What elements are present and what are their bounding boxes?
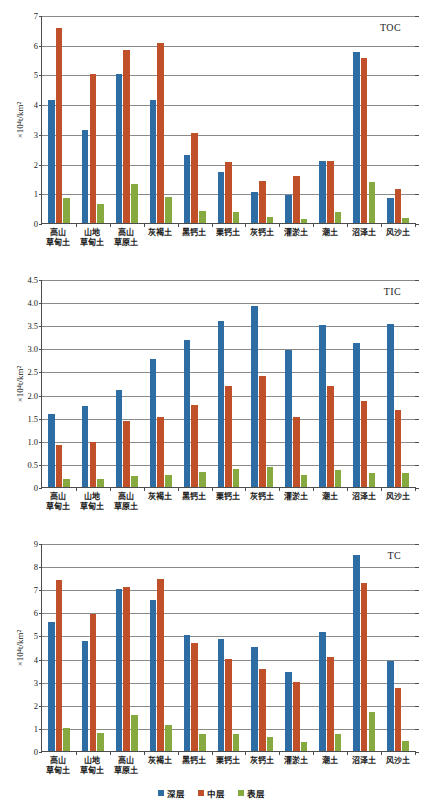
bar-deep[interactable]: [353, 555, 360, 751]
bar-middle[interactable]: [157, 417, 164, 487]
bar-surface[interactable]: [335, 734, 342, 751]
bar-deep[interactable]: [319, 161, 326, 223]
bar-surface[interactable]: [199, 472, 206, 487]
bar-surface[interactable]: [165, 475, 172, 487]
bar-deep[interactable]: [387, 661, 394, 751]
bar-middle[interactable]: [123, 421, 130, 487]
bar-surface[interactable]: [301, 475, 308, 487]
bar-middle[interactable]: [361, 58, 368, 223]
bar-surface[interactable]: [233, 734, 240, 751]
bar-deep[interactable]: [285, 350, 292, 487]
bar-surface[interactable]: [369, 712, 376, 751]
bar-middle[interactable]: [225, 162, 232, 223]
bar-surface[interactable]: [267, 467, 274, 487]
bar-middle[interactable]: [157, 579, 164, 751]
bar-surface[interactable]: [97, 733, 104, 751]
bar-surface[interactable]: [402, 473, 409, 487]
bar-deep[interactable]: [387, 198, 394, 223]
bar-deep[interactable]: [184, 340, 191, 487]
bar-middle[interactable]: [56, 445, 63, 487]
bar-surface[interactable]: [369, 473, 376, 487]
bar-surface[interactable]: [369, 182, 376, 223]
bar-surface[interactable]: [199, 211, 206, 223]
bar-middle[interactable]: [259, 376, 266, 487]
bar-middle[interactable]: [395, 189, 402, 223]
bar-surface[interactable]: [301, 742, 308, 751]
bar-middle[interactable]: [327, 161, 334, 223]
bar-surface[interactable]: [267, 737, 274, 751]
bar-middle[interactable]: [90, 614, 97, 751]
bar-deep[interactable]: [82, 406, 89, 487]
bar-surface[interactable]: [63, 198, 70, 223]
bar-middle[interactable]: [293, 682, 300, 751]
bar-deep[interactable]: [285, 195, 292, 223]
bar-middle[interactable]: [56, 580, 63, 751]
bar-middle[interactable]: [90, 74, 97, 223]
bar-deep[interactable]: [184, 155, 191, 223]
bar-surface[interactable]: [335, 212, 342, 223]
bar-middle[interactable]: [123, 587, 130, 751]
bar-surface[interactable]: [233, 469, 240, 487]
bar-middle[interactable]: [157, 43, 164, 223]
bar-surface[interactable]: [97, 204, 104, 223]
bar-middle[interactable]: [395, 688, 402, 751]
bar-deep[interactable]: [82, 641, 89, 751]
bar-surface[interactable]: [63, 479, 70, 487]
bar-surface[interactable]: [97, 479, 104, 487]
bar-middle[interactable]: [327, 386, 334, 487]
bar-middle[interactable]: [191, 405, 198, 487]
bar-middle[interactable]: [90, 442, 97, 487]
bar-deep[interactable]: [116, 589, 123, 751]
bar-surface[interactable]: [233, 212, 240, 223]
bar-surface[interactable]: [267, 217, 274, 223]
bar-middle[interactable]: [259, 669, 266, 751]
bar-deep[interactable]: [48, 414, 55, 487]
bar-surface[interactable]: [301, 219, 308, 223]
bar-middle[interactable]: [225, 659, 232, 751]
bar-surface[interactable]: [131, 184, 138, 223]
bar-deep[interactable]: [218, 321, 225, 487]
legend-item-deep[interactable]: 深层: [158, 787, 185, 799]
bar-middle[interactable]: [225, 386, 232, 487]
bar-deep[interactable]: [353, 343, 360, 487]
legend-item-middle[interactable]: 中层: [198, 787, 225, 799]
bar-deep[interactable]: [116, 390, 123, 487]
bar-deep[interactable]: [218, 172, 225, 223]
bar-surface[interactable]: [165, 197, 172, 223]
bar-deep[interactable]: [387, 324, 394, 487]
bar-surface[interactable]: [199, 734, 206, 751]
bar-middle[interactable]: [56, 28, 63, 223]
bar-middle[interactable]: [259, 181, 266, 223]
bar-middle[interactable]: [361, 401, 368, 487]
bar-deep[interactable]: [150, 600, 157, 751]
legend-item-surface[interactable]: 表层: [238, 787, 265, 799]
bar-surface[interactable]: [165, 725, 172, 751]
bar-deep[interactable]: [251, 306, 258, 487]
bar-deep[interactable]: [319, 325, 326, 487]
bar-deep[interactable]: [251, 647, 258, 751]
bar-middle[interactable]: [395, 410, 402, 487]
bar-surface[interactable]: [131, 715, 138, 752]
bar-deep[interactable]: [319, 632, 326, 751]
bar-deep[interactable]: [116, 74, 123, 223]
bar-surface[interactable]: [402, 741, 409, 751]
bar-middle[interactable]: [293, 176, 300, 223]
bar-deep[interactable]: [150, 100, 157, 223]
bar-deep[interactable]: [82, 130, 89, 223]
bar-middle[interactable]: [191, 643, 198, 751]
bar-surface[interactable]: [131, 476, 138, 487]
bar-middle[interactable]: [361, 583, 368, 751]
bar-deep[interactable]: [48, 100, 55, 223]
bar-deep[interactable]: [251, 192, 258, 223]
bar-deep[interactable]: [150, 359, 157, 487]
bar-deep[interactable]: [285, 672, 292, 752]
bar-surface[interactable]: [335, 470, 342, 487]
bar-surface[interactable]: [402, 218, 409, 223]
bar-deep[interactable]: [48, 622, 55, 751]
bar-middle[interactable]: [327, 657, 334, 751]
bar-deep[interactable]: [184, 635, 191, 751]
bar-deep[interactable]: [353, 52, 360, 223]
bar-deep[interactable]: [218, 639, 225, 751]
bar-surface[interactable]: [63, 728, 70, 751]
bar-middle[interactable]: [293, 417, 300, 487]
